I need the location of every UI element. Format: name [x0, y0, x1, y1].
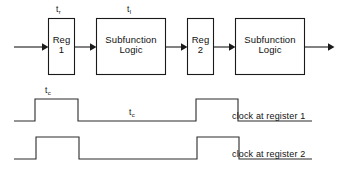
- wire-reg1-to-logic1: [75, 43, 97, 51]
- diagram-vector-layer: [0, 0, 350, 173]
- stage-label-reg2-line2: 2: [188, 45, 214, 55]
- figure-canvas: tr tl Reg 1 Subfunction Logic Reg 2 Subf…: [0, 0, 350, 173]
- stage-label-reg2: Reg 2: [188, 35, 214, 56]
- waveform-label-register-1: clock at register 1: [232, 112, 305, 122]
- wire-reg2-to-logic2: [214, 43, 236, 51]
- stage-label-reg1: Reg 1: [49, 35, 75, 56]
- stage-label-logic2-line2: Logic: [236, 45, 305, 55]
- output-wire: [305, 43, 335, 51]
- stage-label-logic1: Subfunction Logic: [97, 35, 166, 56]
- timing-label-logic1: tl: [127, 5, 131, 14]
- stage-label-logic1-line2: Logic: [97, 45, 166, 55]
- wire-logic1-to-reg2: [166, 43, 188, 51]
- input-wire: [14, 43, 49, 51]
- annotation-pulse-width: tc: [45, 86, 50, 95]
- stage-label-reg1-line2: 1: [49, 45, 75, 55]
- stage-label-logic2: Subfunction Logic: [236, 35, 305, 56]
- waveform-label-register-2: clock at register 2: [232, 150, 305, 160]
- timing-label-reg1: tr: [56, 5, 60, 14]
- annotation-clock-period: tc: [129, 108, 134, 117]
